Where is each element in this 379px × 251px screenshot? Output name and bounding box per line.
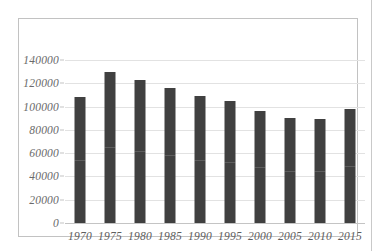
- bar[interactable]: [75, 97, 86, 223]
- y-axis-tick-mark: [60, 153, 64, 154]
- bar[interactable]: [135, 80, 146, 223]
- bar-slot: 2005: [275, 60, 305, 223]
- y-axis-tick-label: 40000: [29, 170, 59, 182]
- y-axis-tick-mark: [60, 106, 64, 107]
- y-axis-tick-mark: [60, 223, 64, 224]
- y-axis-tick-label: 140000: [23, 54, 59, 66]
- x-axis-tick-label: 1980: [128, 230, 152, 242]
- x-axis-tick-label: 1975: [98, 230, 122, 242]
- bar[interactable]: [255, 111, 266, 223]
- bar-slot: 1980: [125, 60, 155, 223]
- bar[interactable]: [225, 101, 236, 223]
- axis-baseline: [65, 223, 365, 224]
- bar[interactable]: [105, 72, 116, 223]
- bar[interactable]: [315, 119, 326, 223]
- bar-slot: 1985: [155, 60, 185, 223]
- bar-series: 1970197519801985199019952000200520102015: [65, 60, 365, 223]
- bar-slot: 1970: [65, 60, 95, 223]
- bar[interactable]: [165, 88, 176, 223]
- x-axis-tick-label: 1990: [188, 230, 212, 242]
- bar-slot: 2010: [305, 60, 335, 223]
- y-axis-tick-mark: [60, 129, 64, 130]
- y-axis-tick-label: 0: [53, 217, 59, 229]
- y-axis-tick-label: 20000: [29, 194, 59, 206]
- bar-slot: 1995: [215, 60, 245, 223]
- x-axis-tick-label: 1970: [68, 230, 92, 242]
- bar[interactable]: [345, 109, 356, 223]
- chart-page: 020000400006000080000100000120000140000 …: [0, 0, 379, 251]
- bar[interactable]: [285, 118, 296, 223]
- bar-slot: 2015: [335, 60, 365, 223]
- y-axis-tick-label: 120000: [23, 77, 59, 89]
- bar-slot: 1990: [185, 60, 215, 223]
- bar-slot: 2000: [245, 60, 275, 223]
- chart-frame: 020000400006000080000100000120000140000 …: [18, 18, 358, 237]
- y-axis-tick-label: 100000: [23, 101, 59, 113]
- bar-slot: 1975: [95, 60, 125, 223]
- page-right-border: [371, 0, 372, 251]
- y-axis-tick-mark: [60, 83, 64, 84]
- x-axis-tick-label: 2010: [308, 230, 332, 242]
- y-axis-tick-label: 60000: [29, 147, 59, 159]
- y-axis-tick-label: 80000: [29, 124, 59, 136]
- x-axis-tick-label: 1985: [158, 230, 182, 242]
- y-axis-tick-mark: [60, 60, 64, 61]
- y-axis-tick-mark: [60, 199, 64, 200]
- x-axis-tick-label: 2005: [278, 230, 302, 242]
- bar[interactable]: [195, 96, 206, 223]
- x-axis-tick-label: 2015: [338, 230, 362, 242]
- y-axis-tick-mark: [60, 176, 64, 177]
- plot-area: 020000400006000080000100000120000140000 …: [65, 60, 365, 223]
- x-axis-tick-label: 1995: [218, 230, 242, 242]
- x-axis-tick-label: 2000: [248, 230, 272, 242]
